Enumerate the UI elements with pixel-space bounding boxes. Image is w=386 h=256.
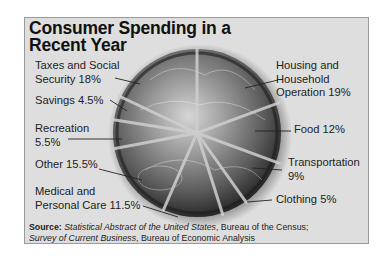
label-housing: Housing and Household Operation 19% — [276, 59, 351, 100]
source-prefix: Source: — [29, 222, 62, 232]
label-medical: Medical and Personal Care 11.5% — [35, 185, 141, 212]
label-housing-line-3: Operation 19% — [276, 86, 351, 100]
label-taxes-line-1: Taxes and Social — [35, 59, 120, 73]
source-agency-2: , Bureau of Economic Analysis — [136, 233, 255, 243]
label-savings-line-1: Savings 4.5% — [35, 94, 103, 108]
label-taxes: Taxes and Social Security 18% — [35, 59, 120, 86]
label-transportation-line-1: Transportation — [288, 156, 360, 170]
label-recreation: Recreation 5.5% — [35, 122, 89, 149]
source-line-2: Survey of Current Business, Bureau of Ec… — [29, 233, 308, 244]
label-housing-line-1: Housing and — [276, 59, 351, 73]
label-taxes-line-2: Security 18% — [35, 73, 120, 87]
source-title-1: Statistical Abstract of the United State… — [64, 222, 216, 232]
label-savings: Savings 4.5% — [35, 94, 103, 108]
label-recreation-line-1: Recreation — [35, 122, 89, 136]
source-line-1: Source: Statistical Abstract of the Unit… — [29, 222, 308, 233]
label-medical-line-1: Medical and — [35, 185, 141, 199]
source-agency-1: , Bureau of the Census; — [216, 222, 308, 232]
label-transportation: Transportation 9% — [288, 156, 360, 183]
label-transportation-line-2: 9% — [288, 170, 360, 184]
label-clothing-line-1: Clothing 5% — [276, 193, 336, 207]
label-housing-line-2: Household — [276, 73, 351, 87]
label-food: Food 12% — [294, 123, 345, 137]
label-other: Other 15.5% — [35, 158, 98, 172]
label-medical-line-2: Personal Care 11.5% — [35, 199, 141, 213]
source-title-2: Survey of Current Business — [29, 233, 136, 243]
label-other-line-1: Other 15.5% — [35, 158, 98, 172]
source-note: Source: Statistical Abstract of the Unit… — [29, 222, 308, 243]
label-recreation-line-2: 5.5% — [35, 136, 89, 150]
label-food-line-1: Food 12% — [294, 123, 345, 137]
label-clothing: Clothing 5% — [276, 193, 336, 207]
